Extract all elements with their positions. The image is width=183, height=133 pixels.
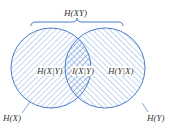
joint-brace [31,18,123,26]
leader-hy [142,103,148,112]
label-joint-entropy: H(XY) [64,8,87,18]
leader-hx [22,102,30,113]
label-h-x: H(X) [3,113,21,123]
label-h-y-given-x: H(Y|X) [108,66,133,76]
label-h-x-given-y: H(X|Y) [37,66,62,76]
label-mutual-information: I(X|Y) [72,66,94,76]
label-h-y: H(Y) [147,113,165,123]
